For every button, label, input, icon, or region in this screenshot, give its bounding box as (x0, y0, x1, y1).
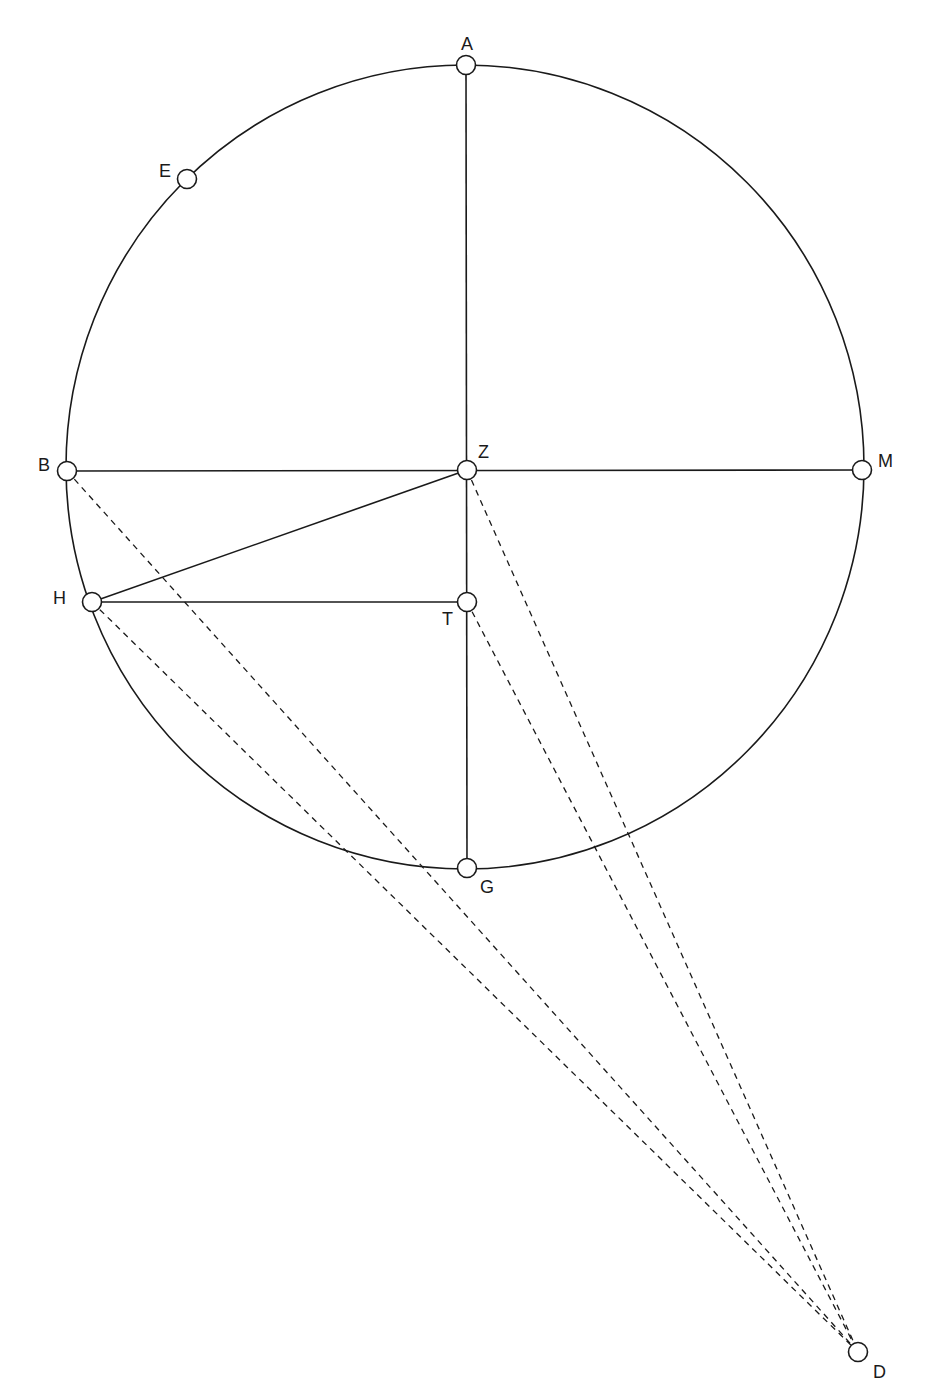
point-h-label: H (53, 588, 66, 608)
point-m-marker (853, 461, 872, 480)
point-g-label: G (480, 877, 494, 897)
point-a-marker (457, 56, 476, 75)
dashed-segment-hd (92, 602, 858, 1352)
point-h-marker (83, 593, 102, 612)
dashed-segment-td (467, 602, 858, 1352)
geometry-diagram: AEBZMHTGD (0, 0, 929, 1398)
point-t-marker (458, 593, 477, 612)
point-b-label: B (38, 455, 50, 475)
point-e-label: E (159, 161, 171, 181)
point-b-marker (58, 462, 77, 481)
point-t-label: T (442, 609, 453, 629)
point-z-label: Z (478, 442, 489, 462)
point-z-marker (458, 461, 477, 480)
point-d-label: D (873, 1362, 886, 1382)
point-g-marker (458, 859, 477, 878)
point-a-label: A (461, 34, 473, 54)
point-e-marker (178, 170, 197, 189)
segment-zh (92, 470, 467, 602)
points (58, 56, 872, 1362)
dashed-segment-zd (467, 470, 858, 1352)
point-m-label: M (878, 451, 893, 471)
point-d-marker (849, 1343, 868, 1362)
